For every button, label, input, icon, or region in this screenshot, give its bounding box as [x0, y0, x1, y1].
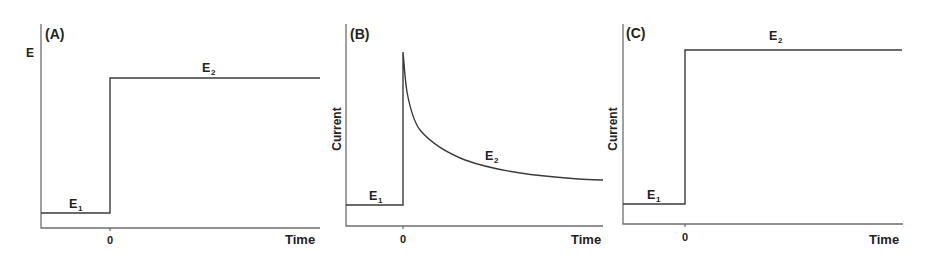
svg-text:E: E — [485, 149, 493, 163]
panel-c-x-axis-label: Time — [869, 232, 899, 247]
panel-a-e1-label: E 1 — [69, 197, 83, 213]
panel-b: (B) Current 0 Time E 1 E 2 — [330, 24, 603, 247]
panel-c-e1-label: E 1 — [647, 188, 661, 204]
svg-text:E: E — [769, 29, 777, 43]
svg-text:2: 2 — [778, 36, 783, 45]
svg-text:2: 2 — [494, 156, 499, 165]
panel-b-current-trace — [346, 52, 603, 205]
panel-a-y-axis-label: E — [26, 46, 34, 60]
svg-text:E: E — [69, 197, 77, 211]
panel-a-label: (A) — [45, 26, 64, 42]
panel-b-x-axis-label: Time — [571, 232, 601, 247]
panel-a: (A) E 0 Time E 1 E 2 — [26, 24, 320, 247]
svg-text:E: E — [647, 188, 655, 202]
panel-a-e2-label: E 2 — [202, 61, 216, 77]
panel-c-e2-label: E 2 — [769, 29, 783, 45]
panel-c-current-trace — [623, 50, 902, 204]
svg-text:E: E — [202, 61, 210, 75]
figure: (A) E 0 Time E 1 E 2 (B) Current 0 Time … — [0, 0, 931, 259]
svg-text:1: 1 — [656, 195, 661, 204]
panel-c-label: (C) — [626, 25, 645, 41]
panel-b-e1-label: E 1 — [369, 189, 383, 205]
panel-b-axes — [346, 24, 603, 226]
panel-b-e2-label: E 2 — [485, 149, 499, 165]
panel-b-y-axis-label: Current — [330, 107, 344, 150]
panel-a-x-axis-label: Time — [285, 232, 315, 247]
panel-b-label: (B) — [350, 26, 369, 42]
panel-c: (C) Current 0 Time E 1 E 2 — [606, 24, 903, 247]
svg-text:E: E — [369, 189, 377, 203]
svg-text:1: 1 — [378, 196, 383, 205]
svg-text:2: 2 — [211, 68, 216, 77]
panel-a-axes — [41, 24, 320, 228]
panel-a-potential-trace — [41, 78, 320, 213]
panel-b-zero-tick-label: 0 — [400, 233, 406, 245]
panel-a-zero-tick-label: 0 — [107, 234, 113, 246]
panel-c-y-axis-label: Current — [606, 107, 620, 150]
panel-c-axes — [623, 24, 903, 224]
panel-c-zero-tick-label: 0 — [682, 231, 688, 243]
svg-text:1: 1 — [78, 204, 83, 213]
